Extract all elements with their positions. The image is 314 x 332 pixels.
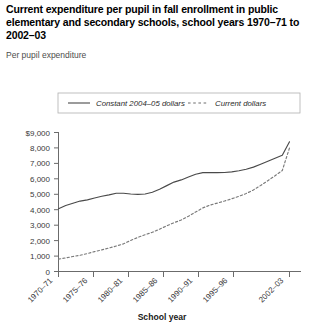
y-tick-label-8000: 8,000 <box>30 144 51 153</box>
line-chart-plot: Constant 2004–05 dollars Current dollars… <box>0 0 314 332</box>
y-tick-label-5000: 5,000 <box>30 190 51 199</box>
y-axis-ticks: $9,000 8,000 7,000 6,000 5,000 4,000 3,0… <box>26 129 58 277</box>
x-tick-label-1980-81: 1980–81 <box>96 276 125 305</box>
y-tick-label-9000: $9,000 <box>26 129 51 138</box>
y-tick-label-7000: 7,000 <box>30 159 51 168</box>
x-tick-label-2002-03: 2002–03 <box>257 276 286 305</box>
legend-label-constant-dollars: Constant 2004–05 dollars <box>96 99 185 108</box>
x-tick-label-1970-71: 1970–71 <box>26 276 55 305</box>
x-tick-label-1975-76: 1975–76 <box>61 276 90 305</box>
legend-label-current-dollars: Current dollars <box>215 99 266 108</box>
series-line-constant-dollars <box>59 142 290 209</box>
x-axis-title: School year <box>138 312 187 322</box>
y-tick-label-4000: 4,000 <box>30 206 51 215</box>
x-axis-ticks: 1970–71 1975–76 1980–81 1985–86 1990–91 … <box>26 272 289 305</box>
chart-legend: Constant 2004–05 dollars Current dollars <box>58 93 300 113</box>
x-tick-label-1995-96: 1995–96 <box>201 276 230 305</box>
y-tick-label-2000: 2,000 <box>30 237 51 246</box>
x-tick-label-1990-91: 1990–91 <box>166 276 195 305</box>
y-tick-label-1000: 1,000 <box>30 252 51 261</box>
y-tick-label-3000: 3,000 <box>30 221 51 230</box>
x-tick-label-1985-86: 1985–86 <box>131 276 160 305</box>
y-tick-label-6000: 6,000 <box>30 175 51 184</box>
series-line-current-dollars <box>59 148 290 259</box>
y-tick-label-0: 0 <box>46 268 51 277</box>
chart-figure: Current expenditure per pupil in fall en… <box>0 0 314 332</box>
